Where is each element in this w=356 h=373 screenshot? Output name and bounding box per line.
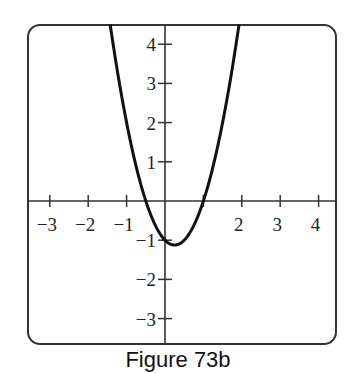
x-tick-label: −1 <box>113 214 133 235</box>
plot-frame <box>28 25 336 344</box>
y-tick-label: 4 <box>147 34 157 55</box>
y-tick-label: −2 <box>136 269 156 290</box>
x-tick-label: 2 <box>234 214 244 235</box>
y-tick-label: 2 <box>147 113 157 134</box>
x-tick-label: −2 <box>75 214 95 235</box>
figure-caption: Figure 73b <box>0 347 356 373</box>
x-tick-label: 4 <box>311 214 321 235</box>
x-tick-label: 3 <box>272 214 282 235</box>
x-tick-label: −3 <box>37 214 57 235</box>
y-tick-label: 3 <box>147 73 157 94</box>
y-tick-label: −1 <box>136 230 156 251</box>
y-tick-label: 1 <box>147 152 157 173</box>
y-tick-label: −3 <box>136 309 156 330</box>
